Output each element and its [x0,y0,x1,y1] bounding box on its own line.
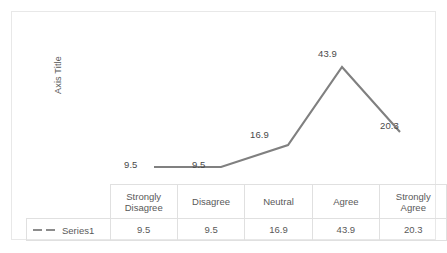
data-label-4: 20.3 [380,120,399,131]
data-label-2: 16.9 [250,129,269,140]
table-header-row: Strongly Disagree Disagree Neutral Agree… [27,185,447,219]
data-label-1: 9.5 [192,159,206,170]
chart-data-table: Strongly Disagree Disagree Neutral Agree… [26,184,447,241]
table-header-strongly-agree: Strongly Agree [380,185,447,219]
header-line-1: Neutral [245,196,311,207]
data-label-3: 43.9 [318,48,337,59]
table-cell-value-0: 9.5 [110,219,177,241]
data-label-0: 9.5 [124,159,138,170]
header-line-1: Strongly [111,191,177,202]
table-cell-value-2: 16.9 [245,219,312,241]
legend-label: Series1 [62,224,94,235]
series-line-marker-icon [33,227,59,233]
header-line-1: Agree [313,196,379,207]
header-legend-spacer [27,185,111,219]
table-cell-value-4: 20.3 [380,219,447,241]
series1-line [12,12,435,184]
header-line-1: Disagree [178,196,244,207]
table-cell-value-1: 9.5 [177,219,244,241]
plot-area: Axis Title 9.5 9.5 16.9 43.9 20.3 [12,12,435,184]
table-header-strongly-disagree: Strongly Disagree [110,185,177,219]
legend-entry-series1: Series1 [27,219,111,241]
header-line-2: Agree [380,202,446,213]
table-header-agree: Agree [312,185,379,219]
table-value-row: Series1 9.5 9.5 16.9 43.9 20.3 [27,219,447,241]
header-line-1: Strongly [380,191,446,202]
table-header-neutral: Neutral [245,185,312,219]
chart-container: Axis Title 9.5 9.5 16.9 43.9 20.3 Strong… [11,11,436,240]
header-line-2: Disagree [111,202,177,213]
table-header-disagree: Disagree [177,185,244,219]
table-cell-value-3: 43.9 [312,219,379,241]
